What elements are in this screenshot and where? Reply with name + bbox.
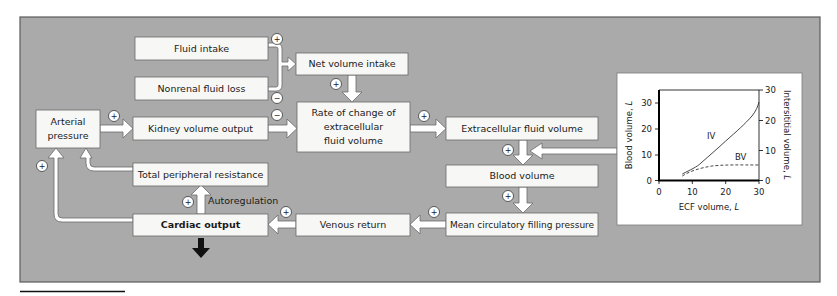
node-cardiac-output: Cardiac output — [133, 214, 268, 236]
node-arterial-pressure: Arterial pressure — [36, 110, 100, 148]
node-mean-circulatory-filling-pressure: Mean circulatory filling pressure — [446, 213, 598, 236]
sign-plus-autoregulation: + — [183, 197, 194, 208]
svg-text:+: + — [333, 80, 340, 89]
svg-text:30: 30 — [754, 187, 765, 197]
svg-text:Net volume intake: Net volume intake — [308, 58, 395, 69]
ecf-volume-graph: 0 10 20 30 0 10 20 30 0 10 20 30 ECF vol… — [617, 73, 802, 225]
svg-text:+: + — [421, 112, 428, 121]
svg-text:fluid volume: fluid volume — [324, 135, 383, 146]
svg-text:Fluid intake: Fluid intake — [174, 43, 229, 54]
svg-text:−: − — [274, 111, 281, 120]
svg-text:Rate of change of: Rate of change of — [311, 107, 396, 118]
svg-text:20: 20 — [765, 116, 776, 126]
svg-text:30: 30 — [765, 85, 776, 95]
svg-text:Mean circulatory filling press: Mean circulatory filling pressure — [450, 220, 595, 230]
node-net-volume-intake: Net volume intake — [296, 53, 408, 75]
sign-plus-fluid-intake: + — [272, 34, 283, 45]
svg-text:+: + — [505, 192, 512, 201]
svg-text:Nonrenal fluid loss: Nonrenal fluid loss — [157, 83, 245, 94]
svg-text:Venous return: Venous return — [320, 219, 386, 230]
svg-text:extracellular: extracellular — [324, 121, 384, 132]
sign-plus-blood-volume: + — [503, 191, 514, 202]
node-rate-of-change-ecf: Rate of change of extracellular fluid vo… — [297, 102, 410, 152]
node-venous-return: Venous return — [296, 214, 410, 236]
sign-plus-cardiac-to-arterial: + — [37, 161, 48, 172]
node-blood-volume: Blood volume — [446, 165, 598, 187]
svg-text:0: 0 — [656, 187, 661, 197]
node-nonrenal-fluid-loss: Nonrenal fluid loss — [135, 77, 268, 100]
x-axis-label: ECF volume, L — [679, 202, 740, 212]
node-fluid-intake: Fluid intake — [135, 37, 268, 60]
svg-text:0: 0 — [765, 176, 770, 186]
svg-text:20: 20 — [720, 187, 731, 197]
svg-text:Cardiac output: Cardiac output — [161, 219, 241, 230]
svg-text:+: + — [39, 162, 46, 171]
fluid-volume-diagram: Fluid intake Nonrenal fluid loss Net vol… — [0, 0, 837, 296]
svg-text:+: + — [431, 208, 438, 217]
node-kidney-volume-output: Kidney volume output — [133, 117, 268, 140]
y-axis-label-left: Blood volume, L — [624, 101, 634, 170]
sign-minus-kidney-output: − — [272, 110, 283, 121]
sign-plus-net-intake: + — [331, 79, 342, 90]
node-extracellular-fluid-volume: Extracellular fluid volume — [446, 117, 598, 140]
svg-text:Kidney volume output: Kidney volume output — [148, 123, 253, 134]
svg-text:+: + — [283, 208, 290, 217]
svg-text:+: + — [505, 146, 512, 155]
bv-label: BV — [735, 152, 747, 162]
svg-text:−: − — [274, 94, 281, 103]
autoregulation-label: Autoregulation — [208, 195, 278, 206]
svg-text:+: + — [274, 35, 281, 44]
y-axis-label-right: Intersititial volume, L — [782, 90, 792, 180]
sign-plus-arterial-pressure: + — [109, 111, 120, 122]
sign-plus-venous-return: + — [281, 207, 292, 218]
svg-text:20: 20 — [641, 124, 652, 134]
svg-text:Blood volume: Blood volume — [489, 170, 554, 181]
sign-plus-mcfp: + — [429, 207, 440, 218]
sign-minus-nonrenal-loss: − — [272, 93, 283, 104]
svg-text:Extracellular fluid volume: Extracellular fluid volume — [461, 123, 583, 134]
svg-text:10: 10 — [641, 150, 652, 160]
svg-text:pressure: pressure — [47, 130, 88, 141]
svg-text:10: 10 — [765, 146, 776, 156]
sign-plus-rate-of-change: + — [419, 111, 430, 122]
svg-text:30: 30 — [641, 98, 652, 108]
svg-text:Total peripheral resistance: Total peripheral resistance — [137, 169, 264, 180]
node-total-peripheral-resistance: Total peripheral resistance — [133, 163, 268, 186]
svg-text:Arterial: Arterial — [51, 116, 86, 127]
svg-text:10: 10 — [687, 187, 698, 197]
svg-text:+: + — [111, 112, 118, 121]
svg-text:+: + — [185, 198, 192, 207]
iv-label: IV — [707, 131, 716, 141]
sign-plus-ecf: + — [503, 145, 514, 156]
svg-text:0: 0 — [647, 176, 652, 186]
